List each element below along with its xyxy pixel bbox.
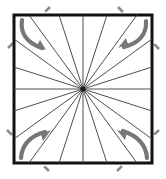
radial-figure-container bbox=[0, 0, 166, 179]
center-point bbox=[80, 86, 85, 91]
radial-figure-svg bbox=[0, 0, 166, 179]
center-dot bbox=[80, 86, 85, 91]
